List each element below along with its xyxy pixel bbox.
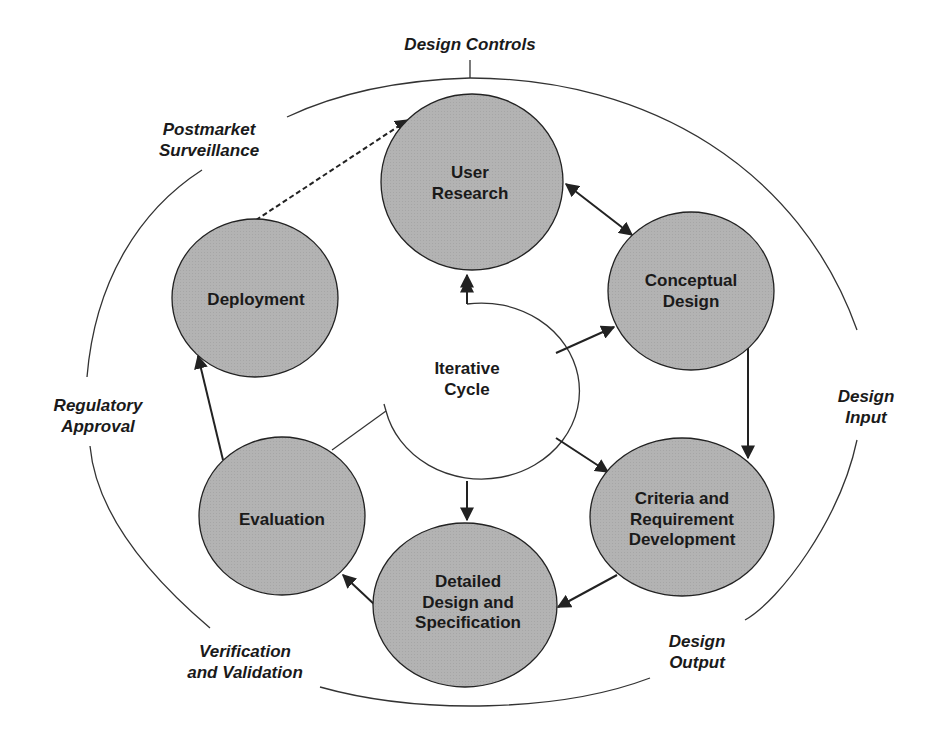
user-research-label: User Research	[432, 163, 509, 204]
regulatory-label: Regulatory Approval	[54, 396, 143, 437]
arrow-detailed-to-evaluation	[343, 575, 375, 605]
label-line: Development	[629, 530, 736, 551]
label-line: Design	[645, 292, 738, 313]
label-line: Iterative	[434, 359, 499, 380]
label-line: Requirement	[629, 510, 736, 531]
label-line: Conceptual	[645, 271, 738, 292]
label-line: Regulatory	[54, 396, 143, 417]
label-line: Deployment	[207, 290, 304, 311]
design-controls-label: Design Controls	[404, 35, 535, 56]
criteria-label: Criteria and Requirement Development	[629, 489, 736, 551]
label-line: Evaluation	[239, 510, 325, 531]
arrow-cycle-to-criteria	[556, 438, 608, 472]
label-line: Specification	[415, 613, 521, 634]
line-to-evaluation	[332, 411, 386, 450]
design-input-label: Design Input	[838, 387, 895, 428]
label-line: Detailed	[415, 572, 521, 593]
label-line: Cycle	[434, 380, 499, 401]
arrow-user-research-conceptual	[566, 184, 632, 235]
label-line: Design	[838, 387, 895, 408]
label-line: Verification	[187, 642, 303, 663]
postmarket-label: Postmarket Surveillance	[159, 120, 259, 161]
design-output-label: Design Output	[669, 632, 726, 673]
label-line: Research	[432, 184, 509, 205]
verification-label: Verification and Validation	[187, 642, 303, 683]
deployment-label: Deployment	[207, 290, 304, 311]
label-line: Design and	[415, 593, 521, 614]
arrow-evaluation-to-deployment	[198, 356, 223, 460]
arrow-criteria-to-detailed	[558, 575, 617, 607]
label-line: Surveillance	[159, 141, 259, 162]
label-line: Criteria and	[629, 489, 736, 510]
evaluation-label: Evaluation	[239, 510, 325, 531]
conceptual-design-label: Conceptual Design	[645, 271, 738, 312]
label-line: Postmarket	[159, 120, 259, 141]
detailed-design-label: Detailed Design and Specification	[415, 572, 521, 634]
label-line: User	[432, 163, 509, 184]
iterative-cycle-label: Iterative Cycle	[434, 359, 499, 400]
label-line: Design Controls	[404, 35, 535, 56]
label-line: Output	[669, 653, 726, 674]
arrow-cycle-to-conceptual	[556, 327, 614, 353]
label-line: Input	[838, 408, 895, 429]
label-line: and Validation	[187, 663, 303, 684]
label-line: Approval	[54, 417, 143, 438]
label-line: Design	[669, 632, 726, 653]
